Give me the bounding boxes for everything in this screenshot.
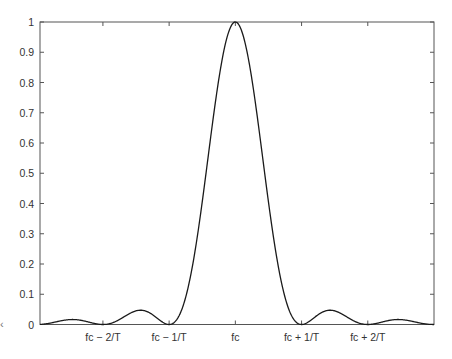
- y-tick-label: 1: [28, 16, 34, 28]
- y-tick-label: 0.3: [19, 228, 34, 240]
- x-tick-label: fc − 1/T: [151, 331, 187, 343]
- y-tick-label: 0.9: [19, 46, 34, 58]
- x-tick-label: fc: [231, 331, 239, 343]
- y-tick-label: 0.1: [19, 288, 34, 300]
- x-tick-label: fc + 2/T: [350, 331, 386, 343]
- spectrum-chart: 00.10.20.30.40.50.60.70.80.91 fc − 2/Tfc…: [0, 0, 452, 359]
- x-axis-ticks: fc − 2/Tfc − 1/Tfcfc + 1/Tfc + 2/T: [85, 22, 386, 343]
- y-tick-label: 0.4: [19, 198, 34, 210]
- y-tick-label: 0.6: [19, 137, 34, 149]
- axes-frame: [40, 22, 434, 325]
- sinc-squared-curve: [40, 22, 434, 324]
- y-tick-label: 0: [28, 319, 34, 331]
- y-tick-label: 0.5: [19, 167, 34, 179]
- x-tick-label: fc + 1/T: [284, 331, 320, 343]
- y-tick-label: 0.8: [19, 77, 34, 89]
- y-tick-label: 0.2: [19, 258, 34, 270]
- cropped-glyph: ‹: [0, 318, 4, 330]
- x-tick-label: fc − 2/T: [85, 331, 121, 343]
- y-tick-label: 0.7: [19, 107, 34, 119]
- y-axis-ticks: 00.10.20.30.40.50.60.70.80.91: [19, 16, 434, 331]
